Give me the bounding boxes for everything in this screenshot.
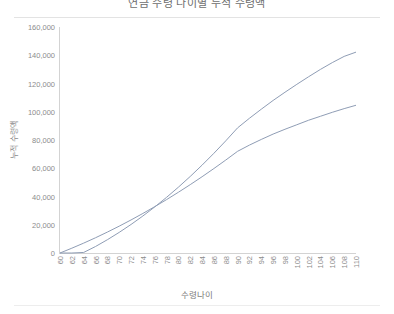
x-tick-label: 70 xyxy=(115,256,124,264)
x-tick-label: 82 xyxy=(186,256,195,264)
x-tick-label: 110 xyxy=(352,256,361,268)
x-tick-label: 96 xyxy=(269,256,278,264)
series-line-1 xyxy=(60,52,356,253)
x-tick-label: 86 xyxy=(209,256,218,264)
x-axis-ticks: 6062646668707274767880828486889092949698… xyxy=(0,256,394,284)
x-tick-label: 92 xyxy=(245,256,254,264)
x-tick-label: 84 xyxy=(198,256,207,264)
y-tick-label: 100,000 xyxy=(28,107,55,116)
x-tick-label: 88 xyxy=(221,256,230,264)
x-tick-label: 90 xyxy=(233,256,242,264)
y-tick-label: 20,000 xyxy=(32,220,55,229)
y-tick-label: 120,000 xyxy=(28,79,55,88)
x-tick-label: 80 xyxy=(174,256,183,264)
bottom-divider xyxy=(14,305,380,306)
x-axis-line xyxy=(59,253,356,254)
x-tick-label: 106 xyxy=(328,256,337,269)
chart-container: 연금 수령 나이별 누적 수령액 020,00040,00060,00080,0… xyxy=(0,0,394,314)
y-tick-label: 60,000 xyxy=(32,164,55,173)
x-tick-label: 60 xyxy=(56,256,65,264)
x-tick-label: 94 xyxy=(257,256,266,264)
x-tick-label: 108 xyxy=(340,256,349,269)
x-tick-label: 62 xyxy=(67,256,76,264)
x-tick-label: 74 xyxy=(138,256,147,264)
x-tick-label: 64 xyxy=(79,256,88,264)
x-tick-label: 98 xyxy=(280,256,289,264)
x-tick-label: 100 xyxy=(292,256,301,269)
series-group xyxy=(60,27,356,253)
x-tick-label: 102 xyxy=(304,256,313,269)
x-tick-label: 104 xyxy=(316,256,325,269)
y-tick-label: 40,000 xyxy=(32,192,55,201)
chart-title: 연금 수령 나이별 누적 수령액 xyxy=(0,0,394,10)
x-tick-label: 72 xyxy=(127,256,136,264)
y-tick-label: 160,000 xyxy=(28,23,55,32)
top-divider xyxy=(14,17,380,18)
plot-area xyxy=(60,27,356,253)
x-tick-label: 78 xyxy=(162,256,171,264)
y-tick-label: 140,000 xyxy=(28,51,55,60)
series-line-0 xyxy=(60,105,356,253)
x-tick-label: 66 xyxy=(91,256,100,264)
x-axis-title: 수령나이 xyxy=(0,288,394,300)
y-tick-label: 80,000 xyxy=(32,136,55,145)
x-tick-label: 68 xyxy=(103,256,112,264)
y-axis-title: 누적 수령액 xyxy=(8,121,19,158)
x-tick-label: 76 xyxy=(150,256,159,264)
